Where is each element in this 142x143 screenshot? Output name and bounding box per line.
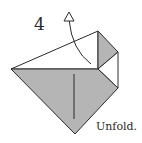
step-number: 4	[34, 14, 45, 34]
arrow-head-icon	[64, 12, 74, 21]
white-flap	[11, 31, 98, 69]
step-caption: Unfold.	[96, 120, 137, 133]
